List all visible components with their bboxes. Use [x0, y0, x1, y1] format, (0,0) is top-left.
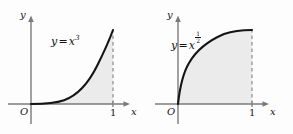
y-axis-label-sqrt: y — [167, 10, 173, 20]
equation-equals-symbol: = — [57, 35, 68, 48]
x-axis-label-cubic: x — [131, 107, 137, 117]
curve-equation-sqrt: y=x12 — [171, 32, 201, 51]
origin-label-cubic: O — [20, 107, 28, 117]
y-axis-arrowhead — [28, 16, 34, 23]
x-axis-arrowhead — [124, 101, 131, 107]
y-axis-arrowhead — [175, 16, 181, 23]
two-graph-figure: y=x3 y x O 1 y=x12 y x — [0, 0, 293, 134]
x-axis-arrowhead — [263, 101, 270, 107]
curve-equation-cubic: y=x3 — [51, 35, 80, 47]
graph-panel-cubic: y=x3 y x O 1 — [0, 0, 147, 134]
x-tick-label-one-cubic: 1 — [110, 108, 116, 118]
x-tick-label-one-sqrt: 1 — [249, 108, 255, 118]
equation-exponent: 3 — [75, 34, 80, 42]
equation-equals-symbol: = — [177, 39, 188, 52]
equation-exponent-fraction: 12 — [195, 31, 201, 44]
exponent-denominator: 2 — [195, 38, 201, 44]
x-axis-label-sqrt: x — [270, 107, 276, 117]
origin-label-sqrt: O — [167, 107, 175, 117]
graph-panel-sqrt: y=x12 y x O 1 — [146, 0, 293, 134]
y-axis-label-cubic: y — [20, 10, 26, 20]
